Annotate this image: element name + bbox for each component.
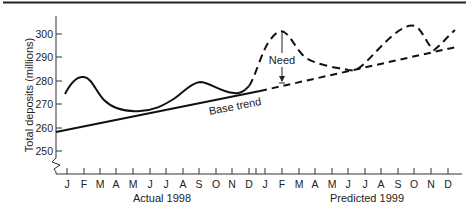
y-axis-title: Total deposits (millions) <box>23 38 35 152</box>
svg-text:J: J <box>147 178 152 190</box>
axis-break-icon <box>52 158 60 172</box>
y-ticks <box>56 34 62 151</box>
svg-text:M: M <box>295 178 304 190</box>
deposits-chart: Total deposits (millions) 300 290 280 27… <box>0 0 475 214</box>
svg-text:O: O <box>212 178 220 190</box>
need-label: Need <box>269 54 295 66</box>
svg-text:F: F <box>81 178 87 190</box>
need-arrow-head-icon <box>279 76 285 82</box>
base-trend-label: Base trend <box>208 95 263 117</box>
svg-text:J: J <box>64 178 69 190</box>
x-ticks <box>67 168 448 174</box>
svg-text:S: S <box>195 178 202 190</box>
svg-text:M: M <box>328 178 337 190</box>
group-label-actual-1998: Actual 1998 <box>133 192 191 204</box>
svg-text:M: M <box>129 178 138 190</box>
svg-text:M: M <box>96 178 105 190</box>
x-tick-labels-1998: J F M A M J J A S O N D <box>64 178 253 190</box>
group-label-predicted-1999: Predicted 1999 <box>330 192 404 204</box>
svg-text:N: N <box>427 178 435 190</box>
svg-text:A: A <box>311 178 318 190</box>
svg-text:260: 260 <box>35 122 53 134</box>
svg-text:290: 290 <box>35 51 53 63</box>
svg-text:N: N <box>228 178 236 190</box>
svg-text:J: J <box>362 178 367 190</box>
svg-text:J: J <box>345 178 350 190</box>
svg-text:270: 270 <box>35 98 53 110</box>
svg-text:F: F <box>279 178 285 190</box>
y-tick-labels: 300 290 280 270 260 250 <box>35 28 53 157</box>
svg-text:300: 300 <box>35 28 53 40</box>
svg-text:S: S <box>394 178 401 190</box>
svg-text:J: J <box>163 178 168 190</box>
svg-text:A: A <box>179 178 186 190</box>
svg-text:D: D <box>245 178 253 190</box>
svg-text:O: O <box>410 178 418 190</box>
x-tick-labels-1999: J F M A M J J A S O N D <box>262 178 452 190</box>
svg-text:A: A <box>377 178 384 190</box>
svg-text:250: 250 <box>35 145 53 157</box>
svg-text:A: A <box>112 178 119 190</box>
svg-text:J: J <box>262 178 267 190</box>
svg-text:280: 280 <box>35 75 53 87</box>
svg-text:D: D <box>444 178 452 190</box>
